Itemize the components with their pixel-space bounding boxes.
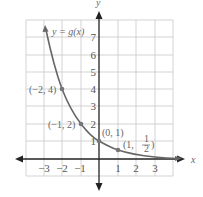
point-0-1 (97, 139, 102, 144)
point-1-half (116, 148, 121, 153)
point-neg1-2 (79, 122, 84, 127)
arrow-up-icon (96, 11, 103, 19)
point-label-neg1-2: (−1, 2) (48, 119, 75, 131)
svg-text:3: 3 (152, 162, 158, 174)
curve-label: y = g(x) (51, 26, 85, 38)
exponential-graph: x y −3 −2 −1 1 2 3 1 2 3 4 5 6 7 y = g(x… (0, 0, 203, 197)
y-tick-labels: 1 2 3 4 5 6 7 (91, 31, 97, 147)
y-axis-label: y (95, 0, 101, 8)
curve-g (46, 30, 178, 159)
svg-text:−2: −2 (56, 162, 68, 174)
svg-text:2: 2 (133, 162, 139, 174)
svg-text:(1,: (1, (123, 139, 134, 151)
x-axis-label: x (190, 154, 196, 165)
svg-text:3: 3 (91, 100, 97, 112)
svg-text:−3: −3 (38, 162, 50, 174)
svg-text:): ) (151, 139, 154, 151)
arrow-left-icon (15, 156, 23, 163)
svg-text:−1: −1 (74, 162, 86, 174)
point-label-0-1: (0, 1) (102, 127, 124, 139)
svg-text:5: 5 (91, 66, 97, 78)
svg-text:4: 4 (91, 83, 97, 95)
arrow-down-icon (96, 183, 103, 191)
point-label-1-half: (1, 1 2 ) (123, 133, 154, 154)
y-axis (96, 11, 103, 191)
svg-text:7: 7 (91, 31, 97, 43)
svg-text:1: 1 (115, 162, 121, 174)
point-neg2-4 (60, 87, 65, 92)
svg-text:2: 2 (144, 143, 149, 154)
svg-text:6: 6 (91, 49, 97, 61)
svg-text:2: 2 (91, 118, 97, 130)
point-label-neg2-4: (−2, 4) (29, 84, 56, 96)
curve-arrow-icon (43, 25, 49, 32)
x-tick-labels: −3 −2 −1 1 2 3 (38, 162, 158, 174)
